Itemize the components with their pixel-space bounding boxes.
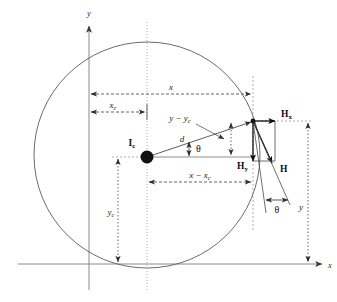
center-label-Ic: Ic <box>129 138 136 150</box>
dimension-x-minus-xc: x − xc <box>149 170 251 182</box>
circle-center-marker: Ic <box>129 138 154 164</box>
vector-H-label: H <box>280 164 288 174</box>
coordinate-axes <box>18 26 322 290</box>
radius-label-d: d <box>180 134 185 144</box>
center-dot <box>141 151 154 164</box>
point-on-circle-marker <box>251 119 256 124</box>
dimension-yc: yc <box>107 159 118 262</box>
vector-Hy-label: Hy <box>237 161 248 173</box>
theta-center-label: θ <box>196 143 201 154</box>
dimension-x-minus-xc-label: x − xc <box>188 170 211 181</box>
y-axis-label: y <box>86 8 91 18</box>
vector-Hx-label: Hx <box>281 109 292 121</box>
field-vector-group: Hx Hy H θ <box>237 109 292 215</box>
dimension-x-label: x <box>168 82 173 92</box>
dimension-y-minus-yc-label: y − yc <box>168 113 191 124</box>
figure-container: x xc x − xc yc y <box>0 0 337 302</box>
geometry-diagram: x xc x − xc yc y <box>0 0 337 302</box>
dimension-xc: xc <box>91 100 147 120</box>
dimension-y: y <box>298 123 308 262</box>
dimension-yc-label: yc <box>107 207 115 218</box>
x-axis-label: x <box>327 260 332 270</box>
dimension-y-minus-yc-leader <box>196 124 224 139</box>
angle-theta-center: θ <box>189 142 201 156</box>
dimension-x: x <box>91 82 251 94</box>
angle-theta-lower: θ <box>266 200 288 215</box>
dimension-y-label: y <box>298 202 303 212</box>
dimension-xc-label: xc <box>109 100 117 111</box>
theta-lower-label: θ <box>275 204 280 215</box>
